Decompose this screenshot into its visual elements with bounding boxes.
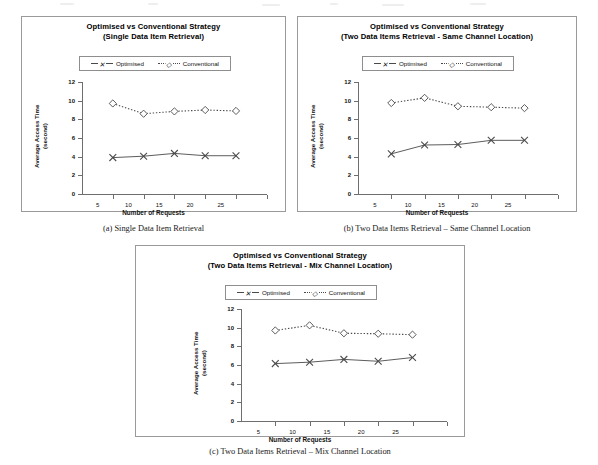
chart-c-xtick-1: 10	[283, 429, 303, 435]
chart-a-y-axis-unit: (second)	[41, 109, 49, 163]
chart-c-xtick-4: 25	[386, 429, 406, 435]
chart-panel-c: Optimised vs Conventional Strategy (Two …	[135, 245, 465, 437]
legend-item-optimised: ✕ Optimised	[237, 289, 290, 297]
legend-label-conventional: Conventional	[183, 60, 219, 67]
chart-c-y-axis-unit: (second)	[200, 336, 208, 390]
chart-b-xtick-3: 20	[465, 202, 485, 208]
chart-a-title-line2: (Single Data Item Retrieval)	[22, 32, 285, 42]
chart-c-legend: ✕ Optimised ◇ Conventional	[225, 285, 377, 300]
legend-item-optimised: ✕ Optimised	[374, 60, 427, 68]
chart-a-y-axis-title: Average Access Time	[33, 95, 41, 177]
chart-a-title-line1: Optimised vs Conventional Strategy	[87, 22, 221, 31]
chart-a-xtick-2: 15	[149, 202, 169, 208]
chart-c-title: Optimised vs Conventional Strategy (Two …	[136, 251, 464, 270]
legend-item-conventional: ◇ Conventional	[304, 289, 365, 297]
chart-c-x-axis-title: Number of Requests	[136, 436, 464, 443]
diamond-marker-icon: ◇	[158, 60, 180, 68]
chart-c-y-axis-title: Average Access Time	[192, 322, 200, 404]
chart-b-xtick-4: 25	[498, 202, 518, 208]
chart-b-xtick-0: 5	[365, 202, 385, 208]
chart-b-xtick-1: 10	[398, 202, 418, 208]
chart-panel-b: Optimised vs Conventional Strategy (Two …	[297, 16, 577, 212]
cross-marker-icon: ✕	[237, 289, 259, 297]
chart-b-title-line2: (Two Data Items Retrieval - Same Channel…	[298, 32, 576, 42]
legend-label-conventional: Conventional	[466, 60, 502, 67]
chart-a-x-axis-title: Number of Requests	[22, 209, 285, 216]
chart-b-y-axis-unit: (second)	[317, 109, 325, 163]
chart-b-xtick-2: 15	[431, 202, 451, 208]
legend-item-conventional: ◇ Conventional	[441, 60, 502, 68]
chart-a-xtick-4: 25	[211, 202, 231, 208]
chart-a-xtick-3: 20	[180, 202, 200, 208]
chart-c-title-line2: (Two Data Items Retrieval - Mix Channel …	[136, 261, 464, 271]
chart-a-title: Optimised vs Conventional Strategy (Sing…	[22, 22, 285, 41]
legend-label-optimised: Optimised	[116, 60, 144, 67]
chart-b-series	[341, 82, 561, 200]
chart-a-xtick-0: 5	[88, 202, 108, 208]
chart-b-legend: ✕ Optimised ◇ Conventional	[362, 56, 514, 71]
chart-a-xtick-1: 10	[118, 202, 138, 208]
chart-c-series	[224, 309, 454, 427]
chart-b-title-line1: Optimised vs Conventional Strategy	[370, 22, 504, 31]
chart-a-legend: ✕ Optimised ◇ Conventional	[79, 56, 231, 71]
chart-a-plot-area: 0 2 4 6 8 10 12 5 10 15 20 25	[65, 82, 270, 200]
legend-label-optimised: Optimised	[399, 60, 427, 67]
chart-c-xtick-2: 15	[317, 429, 337, 435]
scan-artifact	[0, 0, 598, 10]
legend-label-conventional: Conventional	[329, 289, 365, 296]
chart-b-y-axis-title: Average Access Time	[309, 95, 317, 177]
chart-b-plot-area: 0 2 4 6 8 10 12 5 10 15 20 25	[341, 82, 561, 200]
caption-a: (a) Single Data Item Retrieval	[21, 224, 286, 233]
cross-marker-icon: ✕	[374, 60, 396, 68]
chart-c-xtick-0: 5	[248, 429, 268, 435]
chart-c-xtick-3: 20	[351, 429, 371, 435]
diamond-marker-icon: ◇	[304, 289, 326, 297]
chart-b-title: Optimised vs Conventional Strategy (Two …	[298, 22, 576, 41]
diamond-marker-icon: ◇	[441, 60, 463, 68]
legend-item-optimised: ✕ Optimised	[91, 60, 144, 68]
caption-c: (c) Two Data Items Retrieval – Mix Chann…	[135, 447, 465, 456]
chart-c-title-line1: Optimised vs Conventional Strategy	[233, 251, 367, 260]
legend-item-conventional: ◇ Conventional	[158, 60, 219, 68]
legend-label-optimised: Optimised	[262, 289, 290, 296]
chart-c-plot-area: 0 2 4 6 8 10 12 5 10 15 20 25	[224, 309, 454, 427]
caption-b: (b) Two Data Items Retrieval – Same Chan…	[297, 224, 577, 233]
chart-panel-a: Optimised vs Conventional Strategy (Sing…	[21, 16, 286, 212]
chart-a-series	[65, 82, 270, 200]
chart-b-x-axis-title: Number of Requests	[298, 209, 576, 216]
cross-marker-icon: ✕	[91, 60, 113, 68]
figure-page: Optimised vs Conventional Strategy (Sing…	[0, 0, 598, 465]
